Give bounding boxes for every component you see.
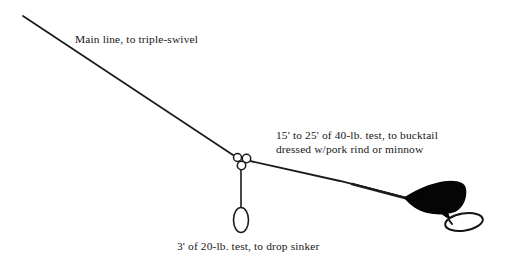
fishing-rig-diagram: Main line, to triple-swivel 15' to 25' o…	[0, 0, 515, 267]
leader-line-taper	[352, 184, 405, 198]
label-leader: 15' to 25' of 40-lb. test, to bucktail d…	[276, 128, 438, 156]
label-dropper: 3' of 20-lb. test, to drop sinker	[177, 239, 319, 253]
drop-sinker	[234, 208, 249, 233]
triple-swivel	[234, 154, 251, 170]
label-leader-line-2: dressed w/pork rind or minnow	[276, 142, 438, 156]
label-main-line: Main line, to triple-swivel	[75, 32, 198, 46]
label-leader-line-1: 15' to 25' of 40-lb. test, to bucktail	[276, 128, 438, 142]
hook-loop	[444, 211, 484, 234]
